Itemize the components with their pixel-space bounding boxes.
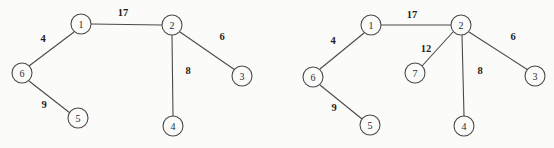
figure-canvas: 174968123456174968121234567 [0,0,554,148]
edge-6-5 [29,81,70,113]
node-label-3: 3 [533,71,538,82]
node-label-3: 3 [240,71,245,82]
node-label-6: 6 [20,68,25,79]
edge-6-5 [320,85,362,119]
edge-2-4 [172,35,173,116]
edge-weight-1-6: 4 [40,33,46,44]
edge-weight-2-3: 6 [510,31,515,42]
edge-weight-2-4: 8 [185,65,190,76]
node-label-4: 4 [171,121,176,132]
graph-after: 174968121234567 [303,9,545,137]
edge-weight-2-4: 8 [477,65,482,76]
edge-weight-2-3: 6 [219,31,224,42]
edge-1-2 [91,24,162,25]
node-label-4: 4 [462,121,467,132]
node-label-5: 5 [368,120,373,131]
node-label-1: 1 [79,19,84,30]
node-label-7: 7 [413,68,418,79]
node-label-2: 2 [170,20,175,31]
edge-weight-1-2: 17 [118,7,129,18]
edge-2-4 [462,35,464,116]
node-label-6: 6 [311,72,316,83]
node-label-5: 5 [76,113,81,124]
edge-1-6 [29,32,74,66]
edge-weight-6-5: 9 [331,102,336,113]
graph-figure: 174968123456174968121234567 [0,0,554,148]
node-label-1: 1 [369,20,374,31]
edge-weight-1-6: 4 [330,35,336,46]
edge-weight-1-2: 17 [407,9,418,20]
node-label-2: 2 [459,20,464,31]
edge-1-6 [320,33,364,69]
edge-weight-2-7: 12 [421,43,432,54]
graph-before: 174968123456 [12,7,252,137]
edge-weight-6-5: 9 [41,99,46,110]
